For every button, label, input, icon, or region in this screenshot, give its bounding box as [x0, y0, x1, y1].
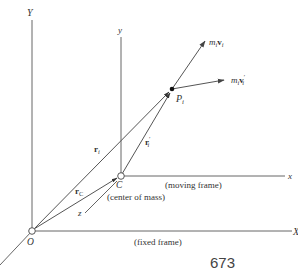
vector-r-i: [33, 92, 169, 230]
particle-point-p: [170, 87, 175, 92]
vector-r-c-label: rC: [75, 186, 83, 197]
momentum-relative-label: miv′i: [231, 73, 246, 86]
vector-r-i-label: ri: [94, 144, 100, 155]
page-number: 673: [210, 254, 235, 271]
center-of-mass-frames-diagram: Y X O (fixed frame) y x z C (moving fram…: [0, 0, 298, 278]
vector-r-i-prime-label: r′i: [145, 135, 151, 148]
origin-point-o: [29, 228, 36, 235]
vector-momentum: [172, 41, 205, 89]
center-of-mass-point-c: [118, 173, 125, 180]
fixed-x-axis-label: X: [292, 226, 298, 237]
moving-y-axis-label: y: [117, 25, 122, 35]
origin-label: O: [27, 237, 34, 247]
center-of-mass-label: (center of mass): [107, 192, 165, 202]
center-of-mass-c-label: C: [116, 180, 123, 190]
moving-frame-label: (moving frame): [165, 180, 222, 190]
moving-x-axis-label: x: [287, 171, 292, 181]
particle-label: Pi: [175, 93, 184, 106]
fixed-frame-label: (fixed frame): [134, 237, 182, 247]
momentum-label: mivi: [209, 37, 224, 48]
vector-r-i-prime: [122, 93, 170, 174]
fixed-y-axis-label: Y: [27, 7, 34, 18]
moving-z-axis-label: z: [77, 208, 82, 218]
vector-momentum-relative: [172, 80, 224, 89]
